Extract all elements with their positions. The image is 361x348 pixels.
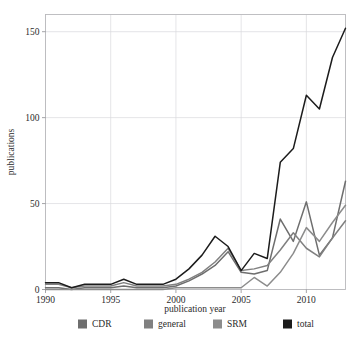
legend-swatch-cdr: [78, 320, 87, 329]
legend-swatch-general: [144, 320, 153, 329]
x-tick-label: 2005: [232, 295, 251, 305]
y-tick-label: 100: [25, 113, 40, 123]
y-tick-label: 150: [25, 27, 40, 37]
legend-label-total: total: [297, 319, 314, 329]
x-tick-label: 1995: [101, 295, 120, 305]
publications-line-chart: 050100150 19901995200020052010 publicati…: [0, 0, 361, 348]
x-axis-title: publication year: [164, 304, 226, 314]
legend-label-srm: SRM: [227, 319, 248, 329]
legend-swatch-srm: [213, 320, 222, 329]
legend-label-cdr: CDR: [92, 319, 112, 329]
y-axis-title: publications: [6, 128, 16, 175]
x-tick-label: 2000: [166, 295, 185, 305]
x-tick-label: 2010: [297, 295, 316, 305]
legend-label-general: general: [158, 319, 186, 329]
x-tick-label: 1990: [36, 295, 55, 305]
y-tick-label: 0: [35, 285, 40, 295]
y-tick-label: 50: [30, 199, 40, 209]
legend-swatch-total: [283, 320, 292, 329]
